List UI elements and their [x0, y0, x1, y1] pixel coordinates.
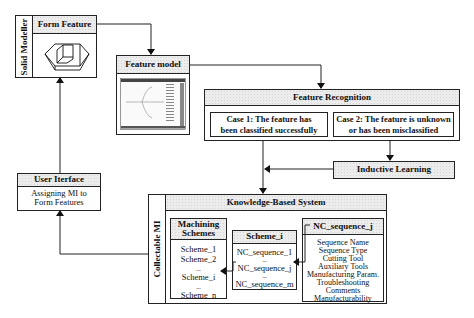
collectable-mi-label-strip: Collectable MI — [149, 195, 166, 303]
scheme-item: Scheme_2 — [171, 254, 226, 264]
inductive-learning-box: Inductive Learning — [333, 161, 455, 179]
cube-with-pocket-icon — [42, 39, 92, 75]
case2-line1: Case 2: The feature is unknown — [336, 114, 451, 124]
nc-sequence-item: NC_sequence_m — [233, 279, 296, 289]
case1-box: Case 1: The feature has been classified … — [210, 112, 328, 137]
scheme-item: Scheme_n — [171, 290, 226, 300]
scheme-item: Scheme_1 — [171, 244, 226, 254]
case2-line2: or has been misclassified — [336, 125, 451, 135]
nc-sequence-item: NC_sequence_1 — [233, 247, 296, 257]
scheme-i-title: Scheme_i — [233, 231, 296, 244]
kbs-title: Knowledge-Based System — [166, 195, 386, 211]
collectable-mi-label: Collectable MI — [152, 220, 162, 277]
solid-modeller-box: Solid Modeller Form Feature — [15, 15, 97, 78]
user-interface-box: User Iterface Assigning MI to Form Featu… — [17, 173, 101, 211]
machining-schemes-title: Machining Schemes — [171, 219, 226, 240]
form-feature-title: Form Feature — [33, 16, 96, 34]
case1-line2: been classified successfully — [221, 125, 318, 135]
inductive-learning-title: Inductive Learning — [334, 162, 454, 178]
case2-box: Case 2: The feature is unknown or has be… — [333, 112, 454, 137]
feature-tree-thumbnail — [120, 78, 186, 130]
machining-schemes-title-line2: Schemes — [182, 229, 215, 238]
nc-sequence-j-title: NC_sequence_j — [303, 219, 383, 235]
solid-modeller-label: Solid Modeller — [19, 18, 29, 75]
feature-model-title: Feature model — [117, 56, 189, 74]
machining-schemes-box: Machining Schemes Scheme_1 Scheme_2 ... … — [170, 218, 227, 299]
scheme-i-box: Scheme_i NC_sequence_1 ... NC_sequence_j… — [232, 230, 297, 290]
user-interface-line2: Form Features — [18, 198, 100, 207]
attribute-item: Manufacturability — [303, 295, 383, 303]
nc-sequence-item: NC_sequence_j — [233, 263, 296, 273]
scheme-item: Scheme_i — [171, 272, 226, 282]
feature-model-box: Feature model — [116, 55, 190, 135]
case1-line1: Case 1: The feature has — [221, 114, 318, 124]
solid-modeller-label-strip: Solid Modeller — [16, 16, 33, 77]
feature-recognition-box: Feature Recognition Case 1: The feature … — [204, 89, 460, 141]
collectable-mi-box: Collectable MI Knowledge-Based System Ma… — [148, 194, 387, 304]
user-interface-title: User Iterface — [18, 174, 100, 187]
feature-recognition-title: Feature Recognition — [205, 90, 459, 106]
nc-sequence-j-box: NC_sequence_j Sequence Name Sequence Typ… — [302, 218, 384, 302]
